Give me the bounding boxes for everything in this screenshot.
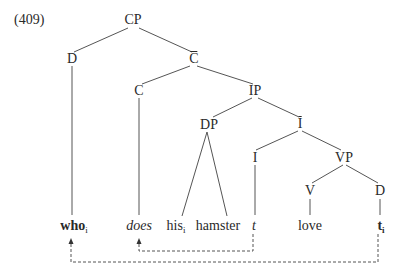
c-bar-label: C — [189, 51, 198, 67]
node-d-spec: D — [67, 51, 77, 67]
node-i-bar: I — [298, 116, 303, 132]
leaf-does: does — [126, 218, 152, 234]
node-ip: IP — [249, 83, 261, 99]
who-text: who — [60, 218, 85, 233]
node-c-bar: C — [189, 51, 198, 67]
leaf-trace: ti — [377, 218, 384, 238]
arrowhead-icon — [137, 238, 142, 244]
who-index: i — [85, 225, 88, 235]
arrowhead-icon — [69, 238, 74, 244]
his-text: his — [167, 218, 183, 233]
node-vp: VP — [335, 150, 353, 166]
leaf-t: t — [252, 218, 256, 234]
node-i-head: I — [253, 150, 258, 166]
his-index: i — [183, 225, 186, 235]
trace-index: i — [382, 225, 385, 235]
node-cp: CP — [124, 12, 141, 28]
leaf-love: love — [298, 218, 322, 234]
leaf-his: hisi — [167, 218, 186, 238]
node-v: V — [305, 183, 315, 199]
leaf-hamster: hamster — [196, 218, 240, 234]
movement-arrows — [71, 234, 378, 262]
arrow-t-to-does — [139, 234, 253, 251]
arrow-trace-to-who — [71, 234, 378, 262]
node-dp: DP — [200, 117, 218, 133]
node-d-obj: D — [375, 183, 385, 199]
i-bar-label: I — [298, 116, 303, 132]
node-c-head: C — [134, 83, 143, 99]
leaf-who: whoi — [60, 218, 87, 238]
